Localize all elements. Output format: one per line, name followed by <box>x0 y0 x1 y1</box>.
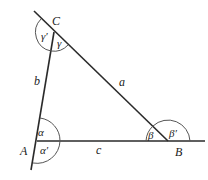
vertex-b-label: B <box>175 145 183 159</box>
side-a-label: a <box>119 75 125 89</box>
side-a-line <box>34 11 168 141</box>
vertex-c-label: C <box>52 14 61 28</box>
vertex-a-label: A <box>19 144 28 158</box>
angle-gamma-label: γ <box>57 37 62 49</box>
triangle-diagram: C A B a b c γ′ γ α α′ β β′ <box>0 0 208 180</box>
angle-alpha-prime-label: α′ <box>40 144 49 156</box>
angle-alpha-label: α <box>38 126 44 138</box>
side-c-label: c <box>96 143 102 157</box>
side-b-label: b <box>34 74 40 88</box>
angle-beta-label: β <box>147 129 154 141</box>
angle-gamma-prime-label: γ′ <box>41 30 48 42</box>
angle-beta-prime-label: β′ <box>168 127 177 139</box>
